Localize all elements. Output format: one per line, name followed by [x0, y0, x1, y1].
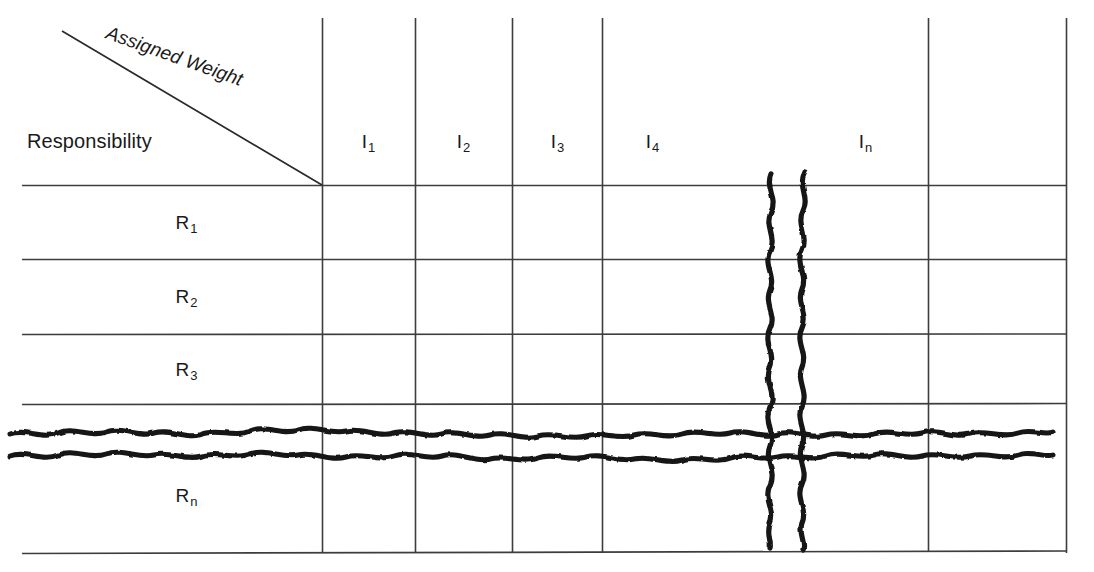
row-header-r3: R3 [175, 360, 196, 379]
h-rule-r2-bottom [22, 334, 1067, 335]
horizontal-break-mark-bottom [10, 452, 1053, 461]
column-header-in: In [859, 132, 872, 151]
column-header-i4: I4 [646, 132, 659, 151]
h-rule-r3-bottom [22, 404, 1067, 405]
vertical-break-mark-left [768, 173, 773, 548]
responsibility-weight-matrix-figure: Responsibility Assigned Weight I1 I2 I3 … [0, 0, 1094, 572]
grid-vertical-rules [323, 18, 1067, 553]
horizontal-break-marks [10, 428, 1053, 461]
row-header-r1: R1 [175, 213, 196, 232]
row-header-rn: Rn [175, 486, 196, 505]
column-header-i3: I3 [551, 132, 564, 151]
vertical-break-mark-right [800, 172, 805, 549]
row-axis-label: Responsibility [27, 131, 152, 151]
matrix-grid [0, 0, 1094, 572]
h-rule-table-bottom [22, 551, 1067, 554]
row-header-r2: R2 [175, 287, 196, 306]
horizontal-break-mark-top [10, 428, 1053, 437]
column-header-i1: I1 [362, 132, 375, 151]
vertical-break-marks [768, 172, 805, 549]
column-header-i2: I2 [457, 132, 470, 151]
